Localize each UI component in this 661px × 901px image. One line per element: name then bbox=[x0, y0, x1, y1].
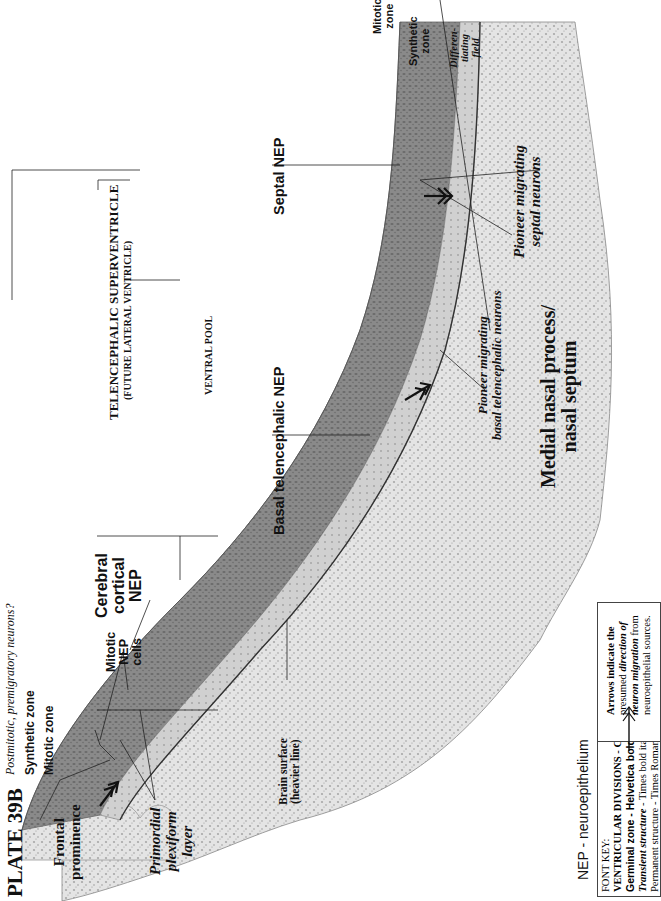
font-key-line-1: VENTRICULAR DIVISIONS - CAPITALS bbox=[612, 742, 624, 892]
arrows-note-text: Arrows indicate the presumed direction o… bbox=[605, 615, 653, 715]
primordial-plexiform-layer-label: Primordial plexiform layer bbox=[148, 807, 195, 875]
postmitotic-label: Postmitotic, premigratory neurons? bbox=[4, 604, 17, 775]
pioneer-basal-label: Pioneer migrating basal telencephalic ne… bbox=[476, 290, 503, 440]
mitotic-nep-cells-label: Mitotic NEP cells bbox=[105, 632, 144, 672]
ventricle-name: TELENCEPHALIC SUPERVENTRICLE bbox=[107, 185, 121, 420]
font-key-box: FONT KEY: VENTRICULAR DIVISIONS - CAPITA… bbox=[597, 737, 661, 897]
font-key-line-3: Transient structure - Times bold italic bbox=[637, 742, 649, 892]
mitotic-zone-left-label: Mitotic zone bbox=[43, 706, 56, 775]
font-key-line-2: Germinal zone - Helvetica bold bbox=[624, 742, 637, 892]
frontal-prominence-label: Frontal prominence bbox=[52, 804, 84, 880]
arrows-note-box: Arrows indicate the presumed direction o… bbox=[597, 602, 661, 742]
arrow-legend-icon bbox=[620, 703, 638, 753]
font-key-heading: FONT KEY: bbox=[600, 742, 612, 892]
ventral-pool-label: VENTRAL POOL bbox=[204, 316, 215, 395]
cerebral-cortical-nep-label: Cerebral cortical NEP bbox=[94, 553, 144, 618]
mitotic-zone-right-label: Mitotic zone bbox=[372, 0, 395, 34]
ventricle-subtitle: (FUTURE LATERAL VENTRICLE) bbox=[123, 241, 134, 400]
plate-title: PLATE 39B bbox=[4, 788, 26, 897]
brain-surface-label: Brain surface (heavier line) bbox=[277, 738, 301, 805]
synthetic-zone-left-label: Synthetic zone bbox=[24, 690, 37, 775]
basal-telencephalic-nep-label: Basal telencephalic NEP bbox=[272, 367, 287, 535]
septal-nep-label: Septal NEP bbox=[272, 138, 287, 215]
differentiating-field-label: Differen- tiating field bbox=[448, 28, 481, 68]
medial-nasal-process-label: Medial nasal process/ nasal septum bbox=[538, 305, 580, 488]
font-key-line-4: Permanent structure - Times Roman or Bol… bbox=[649, 742, 661, 892]
pioneer-septal-label: Pioneer migrating septal neurons bbox=[512, 145, 544, 258]
synthetic-zone-right-label: Synthetic zone bbox=[408, 16, 431, 66]
nep-abbreviation: NEP - neuroepithelium bbox=[576, 739, 591, 880]
